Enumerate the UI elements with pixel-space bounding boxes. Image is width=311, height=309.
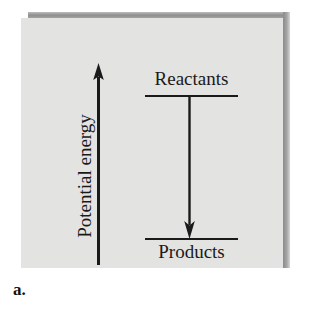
reactants-label: Reactants	[131, 68, 252, 90]
y-axis-label: Potential energy	[74, 86, 96, 266]
energy-diagram-panel: Potential energy Reactants Products	[21, 18, 283, 268]
panel-shadow-right	[283, 12, 290, 268]
products-energy-line	[145, 238, 238, 240]
products-label: Products	[131, 241, 252, 263]
down-arrow-icon	[180, 95, 199, 239]
figure-caption: a.	[13, 280, 26, 300]
